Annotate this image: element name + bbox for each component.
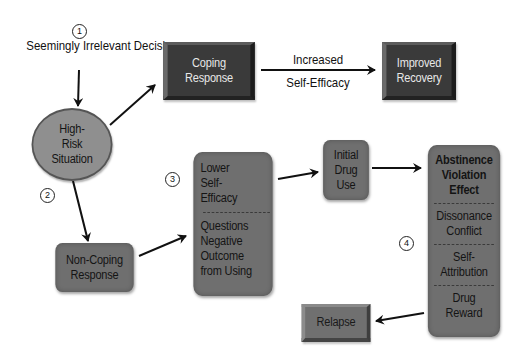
node-text-line: Conflict — [446, 224, 481, 239]
node-text-line: Response — [185, 71, 233, 86]
node-text-line: Initial — [334, 148, 358, 163]
step-marker-4: 4 — [399, 236, 414, 251]
edge-non-coping-to-lower-se — [139, 236, 186, 256]
node-text-line: Drug — [334, 163, 357, 178]
node-text-line: Coping — [192, 56, 226, 71]
node-text-line: Outcome — [200, 249, 243, 264]
node-text-line: Relapse — [316, 315, 355, 330]
step-marker-3: 3 — [165, 172, 180, 187]
node-section-drug-reward: Drug Reward — [428, 291, 500, 321]
section-divider — [203, 212, 270, 213]
node-section-questions-negative-outcome: Questions Negative Outcome from Using — [193, 219, 272, 279]
node-text-line: Attribution — [440, 265, 488, 280]
node-text-line: Situation — [51, 152, 92, 167]
edge-sid-to-high-risk — [78, 70, 79, 106]
node-section-ave-title: Abstinence Violation Effect — [428, 153, 500, 198]
section-divider — [434, 285, 495, 286]
node-text-line: Violation — [442, 168, 487, 183]
node-non-coping-response: Non-Coping Response — [55, 243, 133, 292]
node-text-line: Self- — [453, 250, 475, 265]
node-high-risk-situation: High- Risk Situation — [32, 108, 113, 181]
node-improved-recovery: Improved Recovery — [382, 42, 456, 100]
section-divider — [434, 203, 495, 204]
node-text-line: Drug — [452, 291, 475, 306]
node-lower-self-efficacy: Lower Self- Efficacy Questions Negative … — [193, 152, 272, 296]
step-marker-2: 2 — [40, 188, 55, 203]
node-text-line: Negative — [200, 234, 242, 249]
node-relapse: Relapse — [302, 304, 371, 342]
node-text-line: Lower — [200, 161, 229, 176]
node-text-line: Dissonance — [436, 209, 492, 224]
step-marker-1: 1 — [72, 24, 87, 39]
edge-lower-se-to-initial-use — [278, 172, 318, 179]
node-text-line: from Using — [200, 264, 251, 279]
node-text-line: Seemingly — [26, 38, 79, 53]
node-text-line: Use — [336, 178, 355, 193]
edge-high-risk-to-coping — [110, 85, 155, 125]
edge-label-self-efficacy: Self-Efficacy — [281, 75, 355, 90]
node-text-line: High- — [59, 122, 84, 137]
node-text-line: Abstinence — [435, 153, 493, 168]
edge-high-risk-to-non-coping — [73, 181, 88, 241]
node-text-line: Self- — [200, 176, 222, 191]
node-section-lower-self-efficacy: Lower Self- Efficacy — [193, 161, 272, 206]
node-seemingly-irrelevant-decision: Seemingly Irrelevant Decision — [26, 38, 133, 53]
node-section-dissonance-conflict: Dissonance Conflict — [428, 209, 500, 239]
node-abstinence-violation-effect: Abstinence Violation Effect Dissonance C… — [428, 145, 500, 337]
section-divider — [434, 244, 495, 245]
node-text-line: Non-Coping — [66, 253, 123, 268]
node-text-line: Reward — [446, 306, 483, 321]
edge-ave-to-relapse — [376, 313, 424, 321]
node-text-line: Questions — [200, 219, 248, 234]
node-text-line: Response — [70, 268, 118, 283]
node-initial-drug-use: Initial Drug Use — [323, 140, 369, 200]
node-section-self-attribution: Self- Attribution — [428, 250, 500, 280]
node-text-line: Efficacy — [200, 191, 237, 206]
node-text-line: Risk — [62, 137, 83, 152]
diagram-canvas: 1 2 3 4 Seemingly Irrelevant Decision Hi… — [0, 0, 530, 363]
node-coping-response: Coping Response — [163, 42, 255, 100]
edge-label-increased: Increased — [286, 52, 349, 67]
node-text-line: Recovery — [396, 71, 441, 86]
node-text-line: Effect — [449, 183, 479, 198]
node-text-line: Improved — [397, 56, 441, 71]
